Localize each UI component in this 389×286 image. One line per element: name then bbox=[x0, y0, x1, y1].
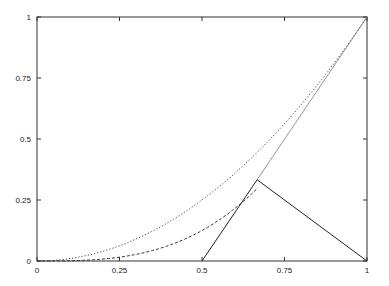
y-tick-label: 0.5 bbox=[20, 135, 32, 144]
x-tick-label: 0.5 bbox=[196, 266, 208, 275]
y-tick-label: 0.75 bbox=[15, 74, 31, 83]
dashed-curve bbox=[37, 189, 257, 261]
falling-segment bbox=[257, 180, 367, 261]
x-tick-label: 0.75 bbox=[277, 266, 293, 275]
x-tick-label: 1 bbox=[365, 266, 370, 275]
y-tick-label: 1 bbox=[27, 13, 32, 22]
chart: 00.250.50.75100.250.50.751 bbox=[0, 0, 389, 286]
tick-labels: 00.250.50.75100.250.50.751 bbox=[15, 13, 369, 275]
thin-diagonal-line bbox=[257, 17, 367, 180]
x-tick-label: 0 bbox=[35, 266, 40, 275]
rising-segment bbox=[202, 180, 257, 261]
x-tick-label: 0.25 bbox=[112, 266, 128, 275]
y-tick-label: 0 bbox=[27, 257, 32, 266]
series bbox=[37, 17, 367, 261]
y-tick-label: 0.25 bbox=[15, 196, 31, 205]
